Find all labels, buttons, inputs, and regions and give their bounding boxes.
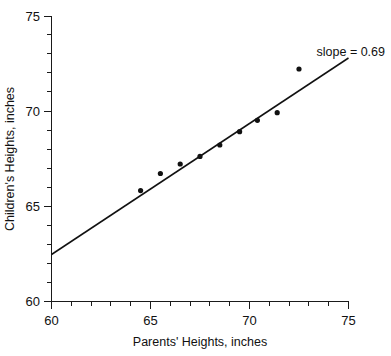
y-tick-label-65: 65 bbox=[26, 199, 40, 214]
y-tick-label-60: 60 bbox=[26, 294, 40, 309]
x-tick-label-70: 70 bbox=[242, 313, 256, 328]
data-point bbox=[197, 154, 202, 159]
data-point bbox=[296, 66, 301, 71]
y-tick-label-75: 75 bbox=[26, 9, 40, 24]
data-point bbox=[138, 188, 143, 193]
scatter-plot-figure: 60 65 70 75 60 65 70 75 slope = 0.69 bbox=[0, 0, 391, 356]
data-points-group bbox=[138, 66, 302, 193]
data-point bbox=[158, 171, 163, 176]
x-axis-title: Parents' Heights, inches bbox=[133, 335, 267, 349]
data-point bbox=[178, 161, 183, 166]
x-tick-label-60: 60 bbox=[44, 313, 58, 328]
y-axis-tick-labels: 60 65 70 75 bbox=[26, 9, 40, 309]
y-axis-title: Children's Heights, inches bbox=[3, 87, 17, 231]
x-tick-label-65: 65 bbox=[143, 313, 157, 328]
data-point bbox=[255, 118, 260, 123]
y-axis-major-ticks bbox=[44, 17, 52, 302]
data-point bbox=[275, 110, 280, 115]
data-point bbox=[217, 142, 222, 147]
data-point bbox=[237, 129, 242, 134]
x-axis-minor-ticks bbox=[71, 302, 328, 306]
plot-canvas: 60 65 70 75 60 65 70 75 slope = 0.69 bbox=[0, 0, 391, 356]
x-tick-label-75: 75 bbox=[341, 313, 355, 328]
y-axis-minor-ticks bbox=[47, 35, 51, 283]
axes-group bbox=[51, 16, 349, 302]
y-tick-label-70: 70 bbox=[26, 104, 40, 119]
x-axis-major-ticks bbox=[52, 302, 349, 309]
slope-annotation: slope = 0.69 bbox=[317, 45, 386, 59]
x-axis-tick-labels: 60 65 70 75 bbox=[44, 313, 355, 328]
